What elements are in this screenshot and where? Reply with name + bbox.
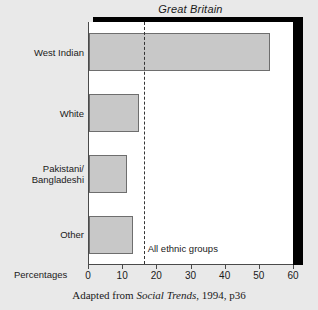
source-caption: Adapted from Social Trends, 1994, p36 [0,289,318,301]
chart-figure: Great Britain All ethnic groups West Ind… [0,0,318,310]
bar [89,216,133,254]
bar [89,155,127,193]
x-tick-label: 30 [185,270,196,281]
reference-line [144,22,145,264]
bar [89,94,139,132]
chart-title: Great Britain [88,3,293,15]
x-tick-mark [191,265,192,269]
category-label: Pakistani/Bangladeshi [4,163,84,185]
x-tick-mark [259,265,260,269]
x-tick-label: 20 [151,270,162,281]
x-tick-mark [293,265,294,269]
x-tick-label: 40 [219,270,230,281]
category-label: Other [4,229,84,240]
x-axis-unit-label: Percentages [14,269,67,280]
x-tick-label: 10 [117,270,128,281]
category-label: West Indian [4,47,84,58]
plot-area: All ethnic groups [88,22,293,265]
x-tick-mark [156,265,157,269]
x-tick-mark [122,265,123,269]
x-tick-label: 0 [85,270,91,281]
x-axis: 0102030405060 [88,265,294,285]
caption-suffix: , 1994, p36 [196,289,246,301]
x-tick-label: 50 [253,270,264,281]
x-tick-mark [225,265,226,269]
caption-work-title: Social Trends [136,289,196,301]
category-axis-labels: West IndianWhitePakistani/BangladeshiOth… [2,22,84,265]
x-tick-mark [88,265,89,269]
x-tick-label: 60 [287,270,298,281]
category-label: White [4,108,84,119]
reference-line-label: All ethnic groups [148,243,218,254]
caption-prefix: Adapted from [72,289,136,301]
bar [89,33,270,71]
